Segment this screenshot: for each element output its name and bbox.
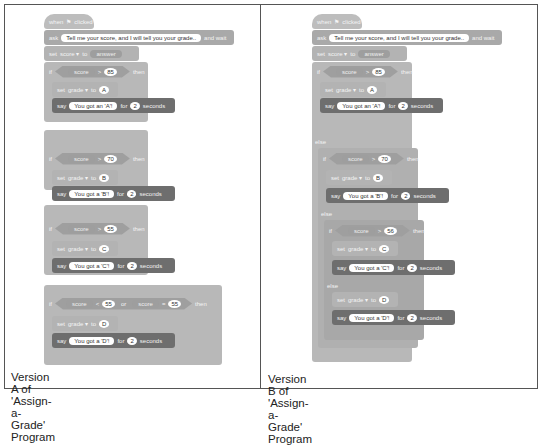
score-reporter[interactable]: score bbox=[66, 300, 93, 308]
to-label: to bbox=[365, 175, 370, 181]
say-text-input[interactable]: You got a 'D'! bbox=[69, 337, 114, 345]
say-text-input[interactable]: You got a 'B'! bbox=[69, 190, 114, 198]
secs-input[interactable]: 2 bbox=[398, 102, 407, 110]
if-label: if bbox=[49, 156, 52, 162]
score-reporter[interactable]: score bbox=[68, 68, 95, 76]
grade-input[interactable]: C bbox=[99, 245, 109, 253]
grade-input[interactable]: D bbox=[99, 320, 109, 328]
say-text-input[interactable]: You got a 'B'! bbox=[343, 192, 388, 200]
ask-text-input[interactable]: Tell me your score, and I will tell you … bbox=[61, 34, 201, 42]
for-label: for bbox=[117, 338, 124, 344]
say-block[interactable]: say You got a 'C'! for 2 seconds bbox=[332, 260, 455, 275]
to-label: to bbox=[91, 175, 96, 181]
say-text-input[interactable]: You got an 'A'! bbox=[69, 102, 117, 110]
score-dropdown[interactable]: score ▾ bbox=[60, 50, 79, 57]
grade-dropdown[interactable]: grade ▾ bbox=[342, 174, 362, 181]
value-input[interactable]: 70 bbox=[378, 155, 391, 163]
secs-input[interactable]: 2 bbox=[130, 102, 139, 110]
grade-dropdown[interactable]: grade ▾ bbox=[68, 86, 88, 93]
set-grade-block[interactable]: set grade ▾ to C bbox=[332, 241, 398, 256]
if-header-a2: if score>70 then bbox=[44, 151, 148, 166]
secs-input[interactable]: 2 bbox=[407, 314, 416, 322]
grade-dropdown[interactable]: grade ▾ bbox=[348, 296, 368, 303]
grade-input[interactable]: C bbox=[379, 245, 389, 253]
then-label: then bbox=[133, 156, 145, 162]
value-input[interactable]: 55 bbox=[104, 225, 117, 233]
score-reporter[interactable]: score bbox=[68, 155, 95, 163]
value-input[interactable]: 85 bbox=[104, 68, 117, 76]
say-block[interactable]: say You got an 'A'! for 2 seconds bbox=[52, 98, 175, 113]
condition-b3[interactable]: score>56 bbox=[335, 225, 410, 237]
value-input[interactable]: 56 bbox=[384, 227, 397, 235]
grade-input[interactable]: A bbox=[367, 86, 377, 94]
ask-label: ask bbox=[317, 35, 326, 41]
ask-block[interactable]: ask Tell me your score, and I will tell … bbox=[312, 30, 502, 45]
set-grade-block[interactable]: set grade ▾ to B bbox=[326, 170, 392, 185]
condition-b2[interactable]: score>70 bbox=[329, 153, 404, 165]
set-score-block[interactable]: set score ▾ to answer bbox=[44, 46, 139, 61]
answer-reporter[interactable]: answer bbox=[358, 50, 389, 58]
condition-b1[interactable]: score>85 bbox=[323, 66, 398, 78]
secs-input[interactable]: 2 bbox=[401, 192, 410, 200]
set-grade-block[interactable]: set grade ▾ to C bbox=[52, 241, 118, 256]
secs-input[interactable]: 2 bbox=[127, 190, 136, 198]
say-text-input[interactable]: You got a 'C'! bbox=[349, 264, 394, 272]
set-grade-block[interactable]: set grade ▾ to B bbox=[52, 170, 118, 185]
value-input[interactable]: 70 bbox=[104, 155, 117, 163]
seconds-label: seconds bbox=[140, 338, 162, 344]
say-block[interactable]: say You got an 'A'! for 2 seconds bbox=[320, 98, 443, 113]
operator: > bbox=[378, 228, 382, 234]
set-score-block[interactable]: set score ▾ to answer bbox=[312, 46, 407, 61]
value-input[interactable]: 55 bbox=[168, 300, 181, 308]
say-block[interactable]: say You got a 'B'! for 2 seconds bbox=[52, 186, 175, 201]
grade-input[interactable]: B bbox=[373, 174, 383, 182]
score-reporter[interactable]: score bbox=[348, 227, 375, 235]
when-flag-clicked-block[interactable]: when ⚑ clicked bbox=[44, 14, 94, 29]
grade-dropdown[interactable]: grade ▾ bbox=[336, 86, 356, 93]
operator: = bbox=[162, 301, 166, 307]
grade-dropdown[interactable]: grade ▾ bbox=[68, 320, 88, 327]
set-grade-block[interactable]: set grade ▾ to A bbox=[52, 82, 118, 97]
say-text-input[interactable]: You got an 'A'! bbox=[337, 102, 385, 110]
grade-dropdown[interactable]: grade ▾ bbox=[68, 245, 88, 252]
ask-text-input[interactable]: Tell me your score, and I will tell you … bbox=[329, 34, 469, 42]
grade-input[interactable]: A bbox=[99, 86, 109, 94]
say-block[interactable]: say You got a 'B'! for 2 seconds bbox=[326, 188, 449, 203]
set-grade-block[interactable]: set grade ▾ to D bbox=[52, 316, 118, 331]
say-text-input[interactable]: You got a 'C'! bbox=[69, 262, 114, 270]
value-input[interactable]: 55 bbox=[102, 300, 115, 308]
set-grade-block[interactable]: set grade ▾ to A bbox=[320, 82, 386, 97]
condition-a2[interactable]: score>70 bbox=[55, 153, 130, 165]
score-dropdown[interactable]: score ▾ bbox=[328, 50, 347, 57]
secs-input[interactable]: 2 bbox=[407, 264, 416, 272]
score-reporter[interactable]: score bbox=[68, 225, 95, 233]
set-grade-block[interactable]: set grade ▾ to D bbox=[332, 292, 398, 307]
grade-dropdown[interactable]: grade ▾ bbox=[68, 174, 88, 181]
grade-input[interactable]: D bbox=[379, 296, 389, 304]
say-block[interactable]: say You got a 'D'! for 2 seconds bbox=[52, 333, 175, 348]
seconds-label: seconds bbox=[139, 191, 161, 197]
grade-input[interactable]: B bbox=[99, 174, 109, 182]
grade-dropdown[interactable]: grade ▾ bbox=[348, 245, 368, 252]
else-label: else bbox=[321, 211, 332, 217]
value-input[interactable]: 85 bbox=[372, 68, 385, 76]
say-block[interactable]: say You got a 'C'! for 2 seconds bbox=[52, 258, 175, 273]
score-reporter[interactable]: score bbox=[132, 300, 159, 308]
say-block[interactable]: say You got a 'D'! for 2 seconds bbox=[332, 310, 455, 325]
say-text-input[interactable]: You got a 'D'! bbox=[349, 314, 394, 322]
answer-reporter[interactable]: answer bbox=[90, 50, 121, 58]
secs-input[interactable]: 2 bbox=[127, 337, 136, 345]
set-label: set bbox=[331, 175, 339, 181]
say-label: say bbox=[57, 191, 66, 197]
secs-input[interactable]: 2 bbox=[127, 262, 136, 270]
condition-a3[interactable]: score>55 bbox=[55, 223, 130, 235]
ask-block[interactable]: ask Tell me your score, and I will tell … bbox=[44, 30, 234, 45]
say-label: say bbox=[325, 103, 334, 109]
or-condition[interactable]: score<55 or score=55 bbox=[55, 298, 192, 310]
score-reporter[interactable]: score bbox=[342, 155, 369, 163]
say-label: say bbox=[331, 193, 340, 199]
condition-a1[interactable]: score>85 bbox=[55, 66, 130, 78]
to-label: to bbox=[359, 87, 364, 93]
when-flag-clicked-block[interactable]: when ⚑ clicked bbox=[312, 14, 362, 29]
score-reporter[interactable]: score bbox=[336, 68, 363, 76]
